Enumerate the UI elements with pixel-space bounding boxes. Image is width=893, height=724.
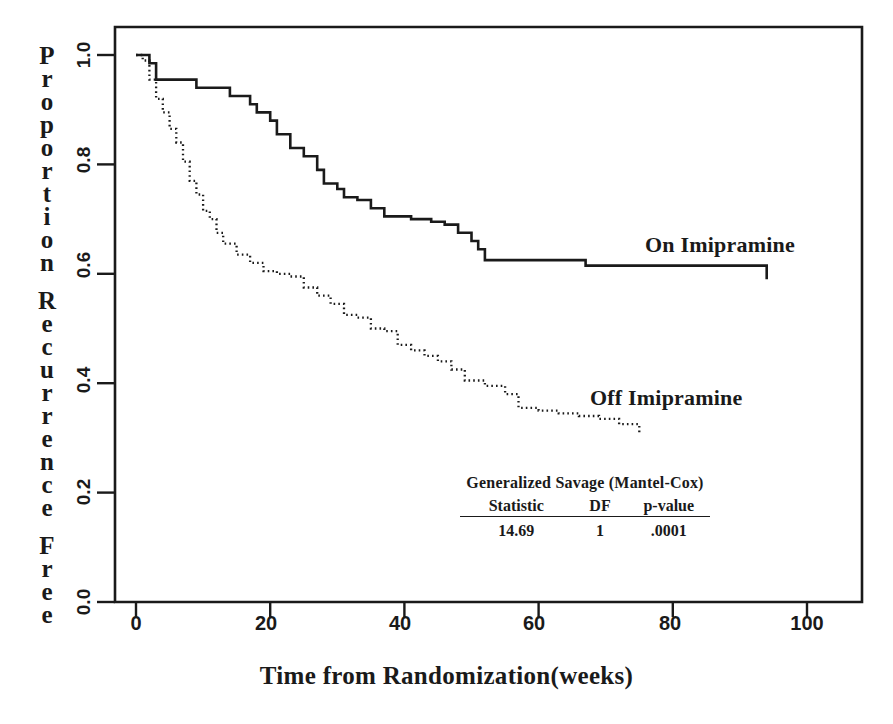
y-axis-title: Proportion Recurrence Free [30,44,64,604]
y-axis-title-letter: F [39,534,54,557]
y-tick-label-0-4: 0.4 [73,354,95,406]
y-axis-title-letter: r [41,404,52,427]
y-axis-title-letter: r [41,557,52,580]
y-axis-title-letter: n [40,251,54,274]
x-tick-label-0: 0 [106,612,166,635]
statistics-header-row: Statistic DF p-value [460,497,710,517]
x-tick-label-100: 100 [777,612,837,635]
curve-label-off-imipramine: Off Imipramine [590,385,743,411]
statistics-value-df: 1 [573,517,628,542]
x-tick-label-80: 80 [640,612,700,635]
x-tick-label-40: 40 [370,612,430,635]
y-axis-title-letter: e [41,496,52,519]
statistics-header-pvalue: p-value [628,497,711,517]
y-tick-label-0-8: 0.8 [73,134,95,186]
y-axis-title-letter: e [41,312,52,335]
survival-chart-figure: Proportion Recurrence Free 1.0 0.8 0.6 0… [0,0,893,724]
y-tick-label-1-0: 1.0 [73,29,95,81]
x-tick-label-20: 20 [236,612,296,635]
x-axis-title: Time from Randomization(weeks) [0,662,893,690]
y-axis-title-letter: c [41,473,52,496]
statistics-annotation: Generalized Savage (Mantel-Cox) Statisti… [440,474,730,541]
statistics-header-statistic: Statistic [460,497,573,517]
y-axis-title-letter: o [41,90,54,113]
statistics-header-df: DF [573,497,628,517]
y-axis-title-letter: e [41,603,52,626]
y-tick-label-0-2: 0.2 [73,466,95,518]
survival-curve-off-imipramine [136,55,639,432]
y-axis-title-letter: p [40,113,54,136]
statistics-value-statistic: 14.69 [460,517,573,542]
y-tick-label-0-6: 0.6 [73,239,95,291]
statistics-test-name: Generalized Savage (Mantel-Cox) [440,474,730,492]
y-axis-title-letter: u [40,358,54,381]
y-axis-title-letter: r [41,381,52,404]
y-axis-title-letter: o [41,136,54,159]
y-axis-title-letter: P [39,44,54,67]
statistics-table: Statistic DF p-value 14.69 1 .0001 [460,497,710,541]
y-axis-title-letter: R [38,289,56,312]
y-axis-title-letter: r [41,159,52,182]
y-axis-title-letter: c [41,335,52,358]
x-tick-label-60: 60 [504,612,564,635]
y-tick-label-0-0: 0.0 [73,576,95,628]
y-axis-title-letter: i [44,205,51,228]
statistics-value-row: 14.69 1 .0001 [460,517,710,542]
y-axis-title-letter: n [40,450,54,473]
statistics-value-pvalue: .0001 [628,517,711,542]
curve-label-on-imipramine: On Imipramine [645,232,795,258]
y-axis-title-letter: r [41,67,52,90]
y-axis-title-letter: e [41,427,52,450]
y-axis-tick-marks [97,55,115,602]
y-axis-title-letter: e [41,580,52,603]
y-axis-title-letter: t [43,182,51,205]
y-axis-title-letter: o [41,228,54,251]
